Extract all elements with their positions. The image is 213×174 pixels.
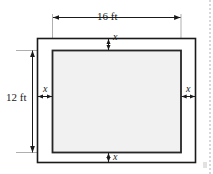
height-dimension-label: 12 ft	[6, 92, 26, 103]
page-edge-artifact	[209, 0, 211, 174]
top-margin-label: x	[113, 32, 117, 42]
page-corner-artifact	[203, 162, 207, 168]
geometry-figure: 16 ft 12 ft x x x x	[0, 0, 213, 174]
inner-rectangle	[53, 51, 182, 153]
right-margin-label: x	[186, 84, 190, 94]
figure-canvas	[0, 0, 213, 174]
width-dimension-label: 16 ft	[97, 11, 117, 22]
left-margin-label: x	[43, 84, 47, 94]
bottom-margin-label: x	[113, 152, 117, 162]
